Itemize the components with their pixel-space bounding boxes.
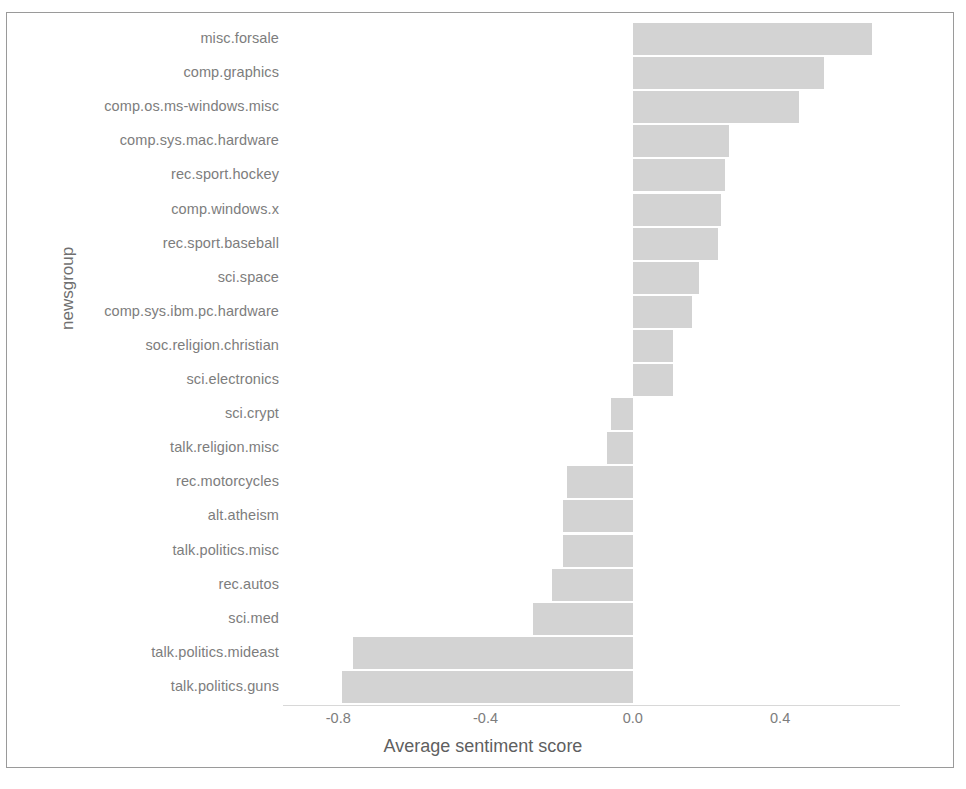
y-axis-tick-label: rec.motorcycles [3,473,279,489]
x-axis-tick-label: 0.4 [770,710,790,726]
bar [633,330,674,362]
bar-row [283,398,898,430]
bar-row [283,159,898,191]
bar [633,23,872,55]
y-axis-tick-label: sci.crypt [3,405,279,421]
y-axis-tick-label: talk.politics.mideast [3,644,279,660]
bar [563,535,633,567]
bar-row [283,194,898,226]
y-axis-tick-label: alt.atheism [3,507,279,523]
y-axis-tick-label: comp.sys.ibm.pc.hardware [3,303,279,319]
bar-row [283,330,898,362]
y-axis-tick-labels: misc.forsalecomp.graphicscomp.os.ms-wind… [0,22,279,704]
y-axis-tick-label: talk.religion.misc [3,439,279,455]
bar [567,466,633,498]
y-axis-tick-label: rec.sport.hockey [3,166,279,182]
bar [563,500,633,532]
bar [633,125,729,157]
y-axis-tick-label: rec.autos [3,576,279,592]
y-axis-tick-label: sci.med [3,610,279,626]
y-axis-tick-label: comp.sys.mac.hardware [3,132,279,148]
bar-row [283,535,898,567]
bar-row [283,466,898,498]
y-axis-tick-label: sci.electronics [3,371,279,387]
bar [552,569,633,601]
bar-row [283,432,898,464]
x-axis-line [283,705,900,706]
bar [633,296,692,328]
x-axis-tick-label: -0.8 [326,710,351,726]
y-axis-tick-label: rec.sport.baseball [3,235,279,251]
bar-row [283,637,898,669]
bar [342,671,633,703]
bar-row [283,296,898,328]
bar [533,603,632,635]
bar-row [283,262,898,294]
bar [633,262,699,294]
bar [633,228,718,260]
plot-panel [283,22,898,704]
bar-row [283,125,898,157]
bar [633,194,721,226]
bar [633,91,799,123]
bar [633,57,824,89]
bar-row [283,364,898,396]
x-axis-title: Average sentiment score [0,736,966,757]
bar-row [283,228,898,260]
x-axis-tick-label: -0.4 [473,710,498,726]
x-axis-tick-label: 0.0 [623,710,643,726]
y-axis-tick-label: comp.os.ms-windows.misc [3,98,279,114]
bar-row [283,671,898,703]
bar-row [283,603,898,635]
y-axis-tick-label: talk.politics.misc [3,542,279,558]
y-axis-tick-label: talk.politics.guns [3,678,279,694]
y-axis-tick-label: comp.windows.x [3,201,279,217]
bar-row [283,500,898,532]
bar [607,432,633,464]
bar [611,398,633,430]
y-axis-tick-label: comp.graphics [3,64,279,80]
bar-row [283,569,898,601]
bar-chart: newsgroup misc.forsalecomp.graphicscomp.… [0,0,966,789]
bar [633,159,725,191]
bar [633,364,674,396]
bar-row [283,23,898,55]
bar [353,637,633,669]
bar-row [283,57,898,89]
y-axis-tick-label: soc.religion.christian [3,337,279,353]
y-axis-tick-label: misc.forsale [3,30,279,46]
y-axis-tick-label: sci.space [3,269,279,285]
bar-row [283,91,898,123]
